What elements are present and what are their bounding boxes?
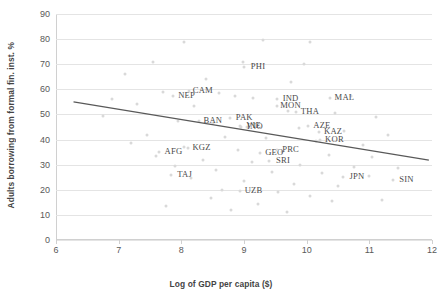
x-tick-label: 6 bbox=[53, 245, 58, 255]
data-point bbox=[171, 94, 174, 97]
data-point bbox=[264, 137, 267, 140]
data-point bbox=[152, 60, 155, 63]
data-point bbox=[329, 97, 332, 100]
data-point bbox=[368, 174, 371, 177]
data-point bbox=[327, 153, 330, 156]
data-point bbox=[295, 110, 298, 113]
data-point bbox=[243, 65, 246, 68]
data-point bbox=[243, 179, 246, 182]
data-point bbox=[205, 78, 208, 81]
x-tick-label: 11 bbox=[365, 245, 374, 255]
data-point bbox=[271, 171, 274, 174]
data-point bbox=[352, 166, 355, 169]
trend-line bbox=[56, 14, 432, 240]
point-label: SRI bbox=[276, 155, 290, 165]
data-point bbox=[259, 152, 262, 155]
data-point bbox=[302, 63, 305, 66]
data-point bbox=[391, 178, 394, 181]
point-label: MAL bbox=[335, 92, 355, 102]
data-point bbox=[298, 127, 301, 130]
data-point bbox=[221, 188, 224, 191]
y-axis-line bbox=[56, 14, 57, 240]
data-point bbox=[250, 161, 253, 164]
y-tick-label: 50 bbox=[40, 109, 50, 119]
data-point bbox=[343, 129, 346, 132]
data-point bbox=[130, 142, 133, 145]
data-point bbox=[187, 89, 190, 92]
data-point bbox=[319, 138, 322, 141]
y-axis-title-text: Adults borrowing from formal fin. inst. … bbox=[6, 42, 16, 208]
y-axis-title: Adults borrowing from formal fin. inst. … bbox=[2, 0, 20, 250]
gridline bbox=[56, 14, 432, 15]
gridline bbox=[56, 39, 432, 40]
data-point bbox=[164, 205, 167, 208]
point-label: CAM bbox=[193, 85, 213, 95]
scatter-chart: Adults borrowing from formal fin. inst. … bbox=[0, 0, 442, 294]
data-point bbox=[252, 97, 255, 100]
x-tick-label: 10 bbox=[302, 245, 312, 255]
data-point bbox=[318, 131, 321, 134]
data-point bbox=[261, 39, 264, 42]
data-point bbox=[374, 115, 377, 118]
y-tick-label: 30 bbox=[40, 160, 50, 170]
data-point bbox=[230, 208, 233, 211]
data-point bbox=[224, 136, 227, 139]
data-point bbox=[299, 163, 302, 166]
point-label: KOR bbox=[325, 134, 344, 144]
data-point bbox=[371, 156, 374, 159]
point-label: JPN bbox=[350, 171, 365, 181]
data-point bbox=[256, 202, 259, 205]
x-tick-mark bbox=[181, 240, 182, 244]
data-point bbox=[161, 90, 164, 93]
x-tick-mark bbox=[56, 240, 57, 244]
x-tick-label: 9 bbox=[241, 245, 246, 255]
data-point bbox=[123, 73, 126, 76]
data-point bbox=[342, 176, 345, 179]
x-tick-mark bbox=[244, 240, 245, 244]
data-point bbox=[177, 119, 180, 122]
data-point bbox=[136, 103, 139, 106]
data-point bbox=[186, 147, 189, 150]
point-label: THA bbox=[301, 106, 319, 116]
data-point bbox=[275, 98, 278, 101]
data-point bbox=[158, 151, 161, 154]
data-point bbox=[321, 172, 324, 175]
x-tick-label: 12 bbox=[427, 245, 437, 255]
x-tick-mark bbox=[369, 240, 370, 244]
point-label: MON bbox=[280, 100, 301, 110]
data-point bbox=[362, 143, 365, 146]
data-point bbox=[192, 104, 195, 107]
data-point bbox=[169, 173, 172, 176]
trend-line-segment bbox=[74, 102, 429, 160]
point-label: SIN bbox=[399, 174, 413, 184]
point-label: TAJ bbox=[177, 169, 192, 179]
x-axis-title: Log of GDP per capita ($) bbox=[0, 279, 442, 289]
data-point bbox=[387, 133, 390, 136]
point-label: UZB bbox=[245, 185, 263, 195]
data-point bbox=[290, 80, 293, 83]
data-point bbox=[202, 158, 205, 161]
data-point bbox=[275, 148, 278, 151]
gridline bbox=[56, 165, 432, 166]
y-tick-label: 0 bbox=[45, 235, 50, 245]
gridline bbox=[56, 89, 432, 90]
point-label: AFG bbox=[164, 146, 182, 156]
data-point bbox=[308, 195, 311, 198]
data-point bbox=[238, 190, 241, 193]
plot-area: 0102030405060708090 6789101112 NEPCAMPHI… bbox=[56, 14, 432, 240]
data-point bbox=[155, 154, 158, 157]
point-label: PHI bbox=[251, 61, 265, 71]
point-label: KGZ bbox=[192, 142, 210, 152]
data-point bbox=[174, 164, 177, 167]
data-point bbox=[229, 117, 232, 120]
data-point bbox=[268, 159, 271, 162]
point-label: INO bbox=[247, 121, 263, 131]
data-point bbox=[236, 148, 239, 151]
x-tick-mark bbox=[307, 240, 308, 244]
y-tick-label: 70 bbox=[40, 59, 50, 69]
y-tick-label: 40 bbox=[40, 135, 50, 145]
point-label: PRC bbox=[282, 144, 299, 154]
data-point bbox=[239, 126, 242, 129]
point-label: BAN bbox=[204, 115, 223, 125]
y-tick-label: 90 bbox=[40, 9, 50, 19]
